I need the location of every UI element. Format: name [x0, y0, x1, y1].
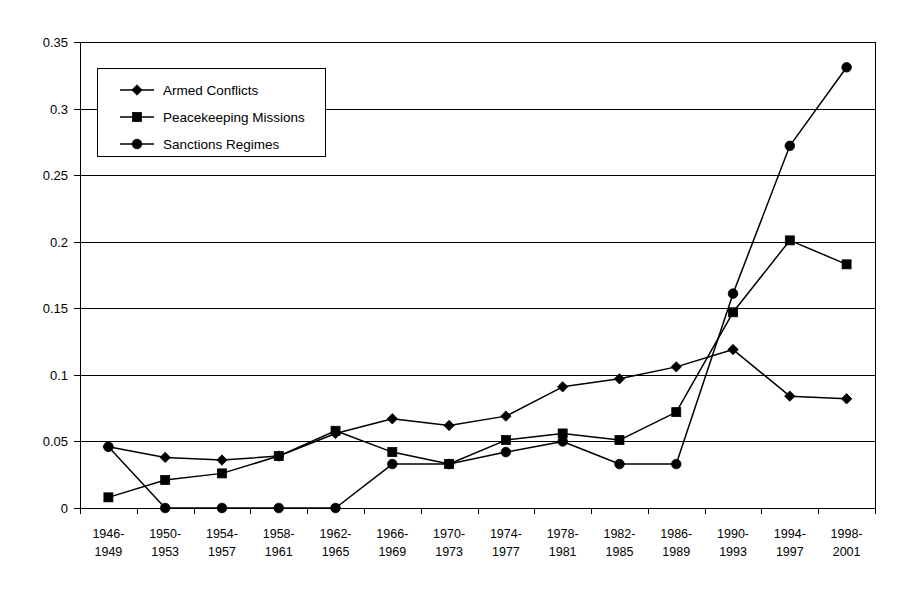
- data-point-square-marker: [672, 408, 681, 417]
- x-axis-label: 1978-1981: [547, 527, 579, 559]
- y-axis-label: 0: [61, 501, 68, 516]
- data-point-diamond-marker: [160, 452, 170, 462]
- data-point-square-marker: [104, 493, 113, 502]
- data-series: [104, 236, 851, 502]
- data-point-circle-marker: [104, 442, 114, 452]
- x-axis-label: 1970-1973: [433, 527, 465, 559]
- data-point-circle-marker: [160, 503, 170, 513]
- legend-label: Peacekeeping Missions: [163, 110, 305, 125]
- x-axis-label: 1946-1949: [92, 527, 124, 559]
- y-axis-label: 0.15: [43, 301, 68, 316]
- data-point-square-marker: [785, 236, 794, 245]
- x-axis-label: 1958-1961: [263, 527, 295, 559]
- x-axis-label: 1974-1977: [490, 527, 522, 559]
- data-point-diamond-marker: [444, 420, 454, 430]
- y-axis-label: 0.1: [50, 368, 68, 383]
- data-point-diamond-marker: [217, 455, 227, 465]
- data-point-circle-marker: [558, 437, 568, 447]
- data-point-circle-marker: [274, 503, 284, 513]
- x-axis-label: 1982-1985: [603, 527, 635, 559]
- y-axis-label: 0.35: [43, 35, 68, 50]
- x-axis-label: 1966-1969: [376, 527, 408, 559]
- data-point-circle-marker: [331, 503, 341, 513]
- data-point-square-marker: [729, 308, 738, 317]
- legend-label: Sanctions Regimes: [163, 137, 280, 152]
- data-point-circle-marker: [388, 459, 398, 469]
- legend-label: Armed Conflicts: [163, 83, 259, 98]
- data-point-square-marker: [331, 426, 340, 435]
- y-axis-label: 0.25: [43, 168, 68, 183]
- y-axis-label: 0.2: [50, 235, 68, 250]
- line-chart: 00.050.10.150.20.250.30.35 1946-19491950…: [0, 0, 914, 610]
- x-axis-label: 1994-1997: [774, 527, 806, 559]
- chart-legend: Armed ConflictsPeacekeeping MissionsSanc…: [98, 69, 326, 157]
- data-point-circle-marker: [615, 459, 625, 469]
- data-point-square-marker: [217, 469, 226, 478]
- y-axis-label: 0.3: [50, 102, 68, 117]
- x-axis-label: 1954-1957: [206, 527, 238, 559]
- data-point-diamond-marker: [841, 394, 851, 404]
- data-point-circle-marker: [217, 503, 227, 513]
- y-axis-ticks: [74, 43, 80, 509]
- data-point-square-marker: [388, 448, 397, 457]
- data-point-circle-marker: [728, 289, 738, 299]
- data-point-square-marker: [274, 452, 283, 461]
- legend-square-icon: [133, 113, 142, 122]
- data-point-square-marker: [501, 436, 510, 445]
- data-point-circle-marker: [444, 459, 454, 469]
- legend-circle-icon: [132, 139, 142, 149]
- x-axis-label: 1986-1989: [660, 527, 692, 559]
- data-point-diamond-marker: [501, 411, 511, 421]
- series-line: [108, 350, 846, 461]
- x-axis-label: 1962-1965: [320, 527, 352, 559]
- x-axis-label: 1950-1953: [149, 527, 181, 559]
- data-point-circle-marker: [501, 447, 511, 457]
- x-axis-tick-labels: 1946-19491950-19531954-19571958-19611962…: [92, 527, 862, 559]
- data-point-square-marker: [161, 476, 170, 485]
- data-point-diamond-marker: [557, 382, 567, 392]
- x-axis-label: 1998-2001: [831, 527, 863, 559]
- data-point-diamond-marker: [671, 362, 681, 372]
- y-axis-tick-labels: 00.050.10.150.20.250.30.35: [43, 35, 68, 516]
- x-axis-label: 1990-1993: [717, 527, 749, 559]
- y-axis-label: 0.05: [43, 434, 68, 449]
- data-point-square-marker: [615, 436, 624, 445]
- data-point-circle-marker: [671, 459, 681, 469]
- chart-container: 00.050.10.150.20.250.30.35 1946-19491950…: [0, 0, 914, 610]
- data-point-square-marker: [842, 260, 851, 269]
- data-point-diamond-marker: [387, 414, 397, 424]
- data-point-circle-marker: [842, 62, 852, 72]
- data-point-circle-marker: [785, 141, 795, 151]
- data-series: [103, 344, 852, 465]
